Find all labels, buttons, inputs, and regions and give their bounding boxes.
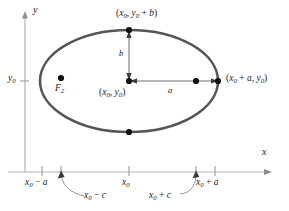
leader-left-focus	[58, 171, 84, 197]
top-vertex-label: (x0, y0 + b)	[116, 9, 157, 20]
semi-minor-label: b	[119, 49, 123, 58]
y-axis	[20, 11, 29, 172]
focus-left-label: F2	[55, 84, 64, 95]
focus-left-point	[58, 75, 64, 81]
semi-major-arrow	[130, 78, 219, 83]
right-vertex-label: (x0 + a, y0)	[226, 74, 267, 85]
leader-left-focus-label: x0 − c	[84, 191, 106, 202]
center-point	[126, 78, 132, 84]
y-axis-label: y	[33, 5, 37, 15]
semi-minor-arrow	[126, 31, 131, 81]
x-axis	[8, 166, 272, 176]
center-label: (x0, y0)	[99, 88, 125, 99]
focus-right-point	[193, 78, 199, 84]
leader-right-focus-label: x0 + c	[149, 191, 171, 202]
y-tick-label: y0	[8, 74, 16, 85]
right-vertex-point	[215, 78, 221, 84]
x-tick-right-vertex-label: x0 + a	[196, 178, 219, 189]
x-tick-left-vertex-label: x0 − a	[25, 178, 48, 189]
bottom-vertex-point	[126, 129, 132, 135]
x-tick-center-label: x0	[122, 178, 130, 189]
top-vertex-point	[126, 27, 132, 33]
x-axis-label: x	[262, 147, 266, 157]
ellipse-diagram: y x (x0, y0 + b) (x0, y0) (x0 + a, y0) F…	[0, 0, 289, 211]
semi-major-label: a	[168, 86, 172, 95]
